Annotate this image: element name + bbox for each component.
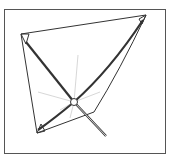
pole-top-left [26, 42, 74, 102]
shade-sail-illustration [0, 0, 171, 163]
hub-joint [71, 99, 78, 106]
sail-outline [21, 15, 146, 133]
